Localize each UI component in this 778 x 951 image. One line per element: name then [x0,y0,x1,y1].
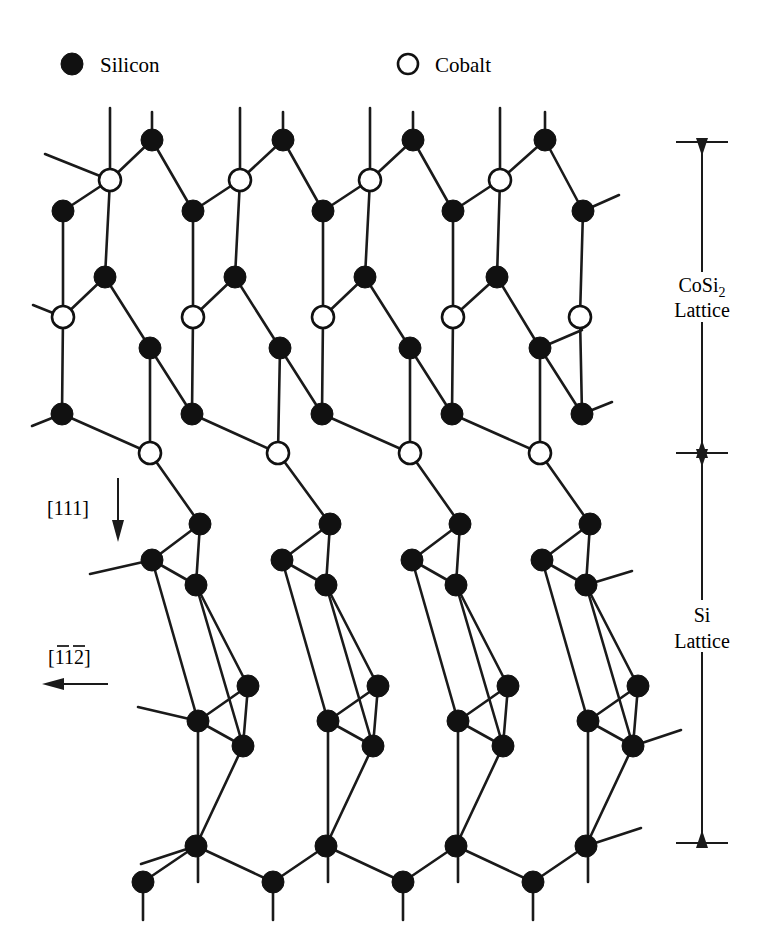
bond-interface-co-si [278,453,330,524]
atom-silicon [315,574,337,596]
bond-si-si [410,348,452,414]
atom-silicon [445,574,467,596]
atom-silicon [399,337,421,359]
bond-si-co [452,414,540,453]
atom-silicon [522,871,544,893]
bond-si-si [280,348,322,414]
atom-silicon [51,403,73,425]
bond-interface-co-si [150,453,200,524]
bond-si-si-vertical [456,746,503,846]
bond-si-si [326,846,403,882]
atom-cobalt [99,169,121,191]
bond-co-si-vertical [62,317,63,414]
bond-si-co [322,414,410,453]
atom-silicon [311,403,333,425]
cosi2-arrowhead-up-icon [696,138,708,156]
atom-silicon [139,337,161,359]
atom-silicon [185,574,207,596]
bond-layer [32,108,681,920]
atom-silicon [441,403,463,425]
bond-si-si [540,348,582,414]
atom-silicon [187,710,209,732]
legend: Silicon Cobalt [61,53,491,77]
si-label-line2: Lattice [674,630,730,652]
atom-silicon [224,266,246,288]
atom-silicon [317,710,339,732]
atom-silicon [94,266,116,288]
atom-silicon [579,513,601,535]
atom-silicon [447,710,469,732]
atom-silicon [534,129,556,151]
bond-interface-co-si [410,453,460,524]
direction-111-arrowhead-icon [112,520,124,542]
si-arrowhead-down-icon [696,830,708,848]
atom-silicon [575,835,597,857]
atom-silicon [272,129,294,151]
atom-silicon [362,735,384,757]
atom-silicon [627,675,649,697]
bond-co-si-vertical [192,317,193,414]
legend-cobalt-label: Cobalt [435,53,491,77]
atom-silicon [232,735,254,757]
atom-silicon [445,835,467,857]
bond-si-si-vertical [326,746,373,846]
bond-si-si [105,277,150,348]
atom-silicon [531,549,553,571]
bond-si-si [413,140,453,211]
region-bracket-si: Si Lattice [660,449,748,848]
bond-si-si [545,140,583,211]
atom-silicon [529,337,551,359]
bond-si-si [365,277,410,348]
cosi2-label-line2: Lattice [674,299,730,321]
bond-si-co [192,414,278,453]
atom-cobalt [267,442,289,464]
si-label-line1: Si [694,604,711,626]
bond-si-si [235,277,280,348]
atom-silicon [315,835,337,857]
atom-cobalt [312,306,334,328]
atom-silicon [392,871,414,893]
atom-silicon [182,200,204,222]
legend-silicon-marker-icon [61,53,83,75]
bond-co-si-vertical [497,180,500,277]
atom-cobalt [529,442,551,464]
bond-si-si [456,846,533,882]
atom-silicon [497,675,519,697]
atom-cobalt [229,169,251,191]
atom-silicon [492,735,514,757]
atom-silicon [577,710,599,732]
atom-cobalt [569,306,591,328]
bond-interface-co-si [540,453,590,524]
atom-silicon [132,871,154,893]
bond-si-si [196,846,273,882]
bond-co-si-vertical [452,317,453,414]
direction-label-112bar: [112] [48,646,91,668]
atom-silicon [52,200,74,222]
legend-silicon-label: Silicon [100,53,160,77]
bond-si-si [497,277,540,348]
direction-indicator-112bar: [112] [42,646,108,690]
atom-layer [51,129,649,893]
atom-cobalt [52,306,74,328]
bond-si-co-vertical [580,211,583,317]
atom-silicon [312,200,334,222]
atom-silicon [449,513,471,535]
bond-co-si-vertical [235,180,240,277]
atom-cobalt [442,306,464,328]
direction-label-111: [111] [47,497,89,519]
atom-silicon [442,200,464,222]
atom-cobalt [359,169,381,191]
atom-silicon [367,675,389,697]
bond-co-si-vertical [365,180,370,277]
figure-root: Silicon Cobalt CoSi2 Lattice [0,0,778,951]
atom-silicon [622,735,644,757]
bond-si-si [283,140,323,211]
atom-cobalt [399,442,421,464]
atom-silicon [141,549,163,571]
atom-silicon [486,266,508,288]
bond-si-co-vertical [278,348,280,453]
atom-silicon [141,129,163,151]
bond-si-si-vertical [586,746,633,846]
atom-cobalt [139,442,161,464]
lattice-diagram: Silicon Cobalt CoSi2 Lattice [0,0,778,951]
